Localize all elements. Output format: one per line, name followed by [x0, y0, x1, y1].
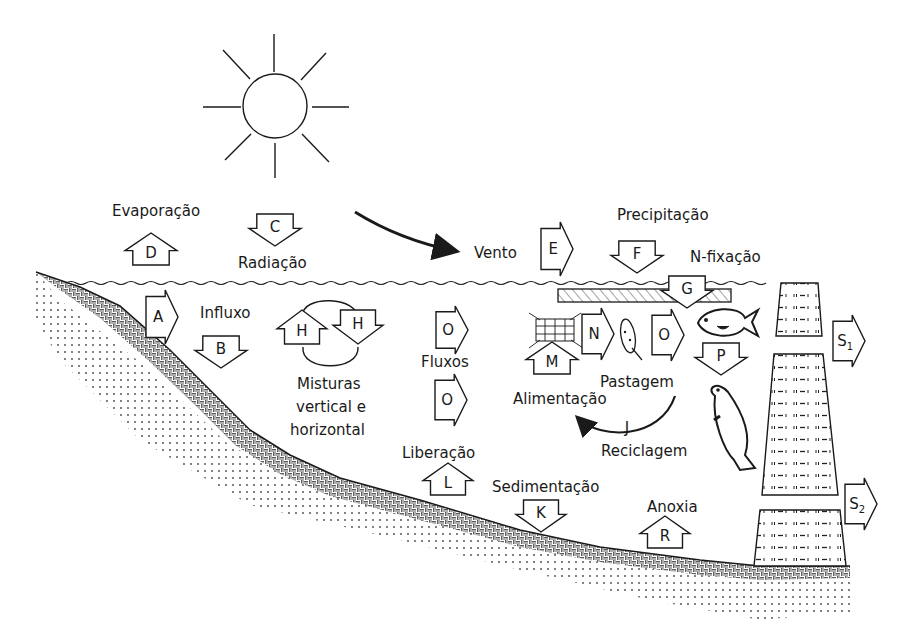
- label-misturas-1: Misturas: [297, 375, 361, 393]
- arrow-h2-icon: H: [333, 310, 383, 344]
- label-precipitacao: Precipitação: [617, 206, 709, 224]
- arrow-letter: R: [660, 527, 670, 545]
- arrow-o3-icon: O: [652, 309, 684, 361]
- arrow-letter: A: [153, 308, 164, 326]
- large-fish-icon: [711, 386, 755, 470]
- arrow-h1-icon: H: [277, 310, 327, 344]
- arrow-letter: H: [352, 315, 363, 333]
- arrow-s2-icon: S2: [845, 478, 877, 530]
- arrow-letter: G: [681, 280, 693, 298]
- label-influxo: Influxo: [200, 304, 250, 322]
- label-anoxia: Anoxia: [647, 498, 698, 516]
- label-sedimentacao: Sedimentação: [492, 478, 599, 496]
- arrow-letter: O: [658, 326, 670, 344]
- label-vento: Vento: [474, 244, 517, 262]
- zooplankton-icon: [618, 318, 642, 360]
- arrow-letter: K: [536, 504, 547, 522]
- arrow-letter: O: [442, 321, 454, 339]
- arrow-p-icon: P: [695, 343, 747, 375]
- label-alimentacao: Alimentação: [513, 390, 607, 408]
- wind-arrow-icon: [355, 212, 455, 251]
- dam-icon: [754, 283, 846, 566]
- arrow-letter: E: [548, 240, 557, 258]
- label-evaporacao: Evaporação: [112, 202, 200, 220]
- arrow-c-icon: C: [249, 214, 301, 246]
- arrow-letter: B: [216, 340, 226, 358]
- arrow-m-icon: M: [526, 342, 578, 374]
- arrow-r-icon: R: [640, 516, 690, 548]
- arrow-d-icon: D: [125, 233, 177, 265]
- label-n-fixacao: N-fixação: [690, 248, 761, 266]
- arrow-f-icon: F: [611, 241, 663, 273]
- arrow-l-icon: L: [423, 463, 473, 495]
- label-reciclagem: Reciclagem: [601, 442, 687, 460]
- label-liberacao: Liberação: [402, 444, 475, 462]
- arrow-n-icon: N: [582, 308, 614, 360]
- arrow-letter: H: [296, 322, 307, 340]
- label-misturas-2: vertical e: [296, 398, 366, 416]
- arrow-o1-icon: O: [436, 306, 468, 354]
- label-misturas-3: horizontal: [290, 421, 365, 439]
- arrow-a-icon: A: [146, 290, 178, 344]
- arrow-letter: D: [145, 244, 157, 262]
- arrow-b-icon: B: [195, 336, 247, 368]
- arrow-o2-icon: O: [435, 374, 467, 426]
- arrow-letter: P: [716, 347, 725, 365]
- arrow-letter: N: [589, 325, 600, 343]
- label-fluxos: Fluxos: [421, 353, 469, 371]
- arrow-s1-icon: S1: [833, 315, 865, 367]
- arrow-letter: C: [270, 218, 280, 236]
- lake-ecosystem-diagram: ABCDEFGHHOOOLKMNPRS1S2J Evaporação Radia…: [0, 0, 922, 628]
- arrow-letter: L: [444, 474, 453, 492]
- arrow-k-icon: K: [516, 500, 566, 532]
- small-fish-icon: [698, 309, 758, 336]
- arrow-g-icon: G: [661, 276, 713, 308]
- arrow-letter: F: [633, 245, 642, 263]
- arrow-e-icon: E: [541, 222, 573, 276]
- sun-icon: [203, 34, 349, 178]
- label-radiacao: Radiação: [238, 254, 307, 272]
- arrow-j-label: J: [624, 419, 629, 437]
- arrow-letter: M: [546, 353, 559, 371]
- arrow-letter: O: [441, 391, 453, 409]
- phytoplankton-icon: [529, 313, 583, 348]
- label-pastagem: Pastagem: [600, 373, 674, 391]
- water-surface: [66, 282, 766, 285]
